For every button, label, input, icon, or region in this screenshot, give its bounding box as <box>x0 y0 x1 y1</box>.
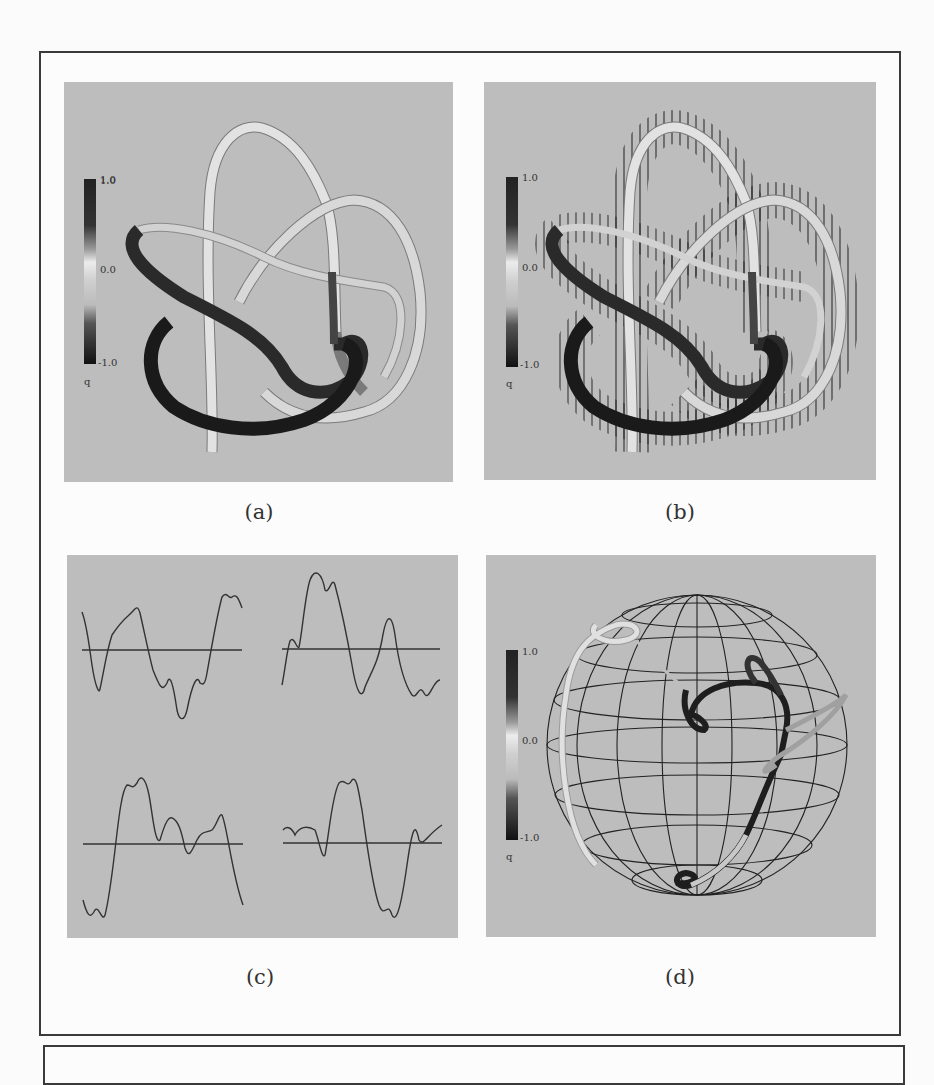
colorbar-max-label: 1.0 <box>522 646 538 657</box>
colorbar-min-label: -1.0 <box>98 357 117 368</box>
profile-curves-plot <box>67 555 458 938</box>
colorbar-mid-label: 0.0 <box>522 735 538 746</box>
panel-c <box>67 555 458 938</box>
panel-b: 1.0 0.0 -1.0 q <box>484 82 876 480</box>
colorbar <box>84 179 96 364</box>
caption-c: (c) <box>230 965 290 989</box>
colorbar-mid-label: 0.0 <box>100 264 116 275</box>
colorbar-variable-label: q <box>506 851 512 862</box>
caption-a: (a) <box>229 500 289 524</box>
sphere-curve-plot <box>486 555 876 937</box>
colorbar <box>506 177 518 367</box>
colorbar-min-label: -1.0 <box>520 359 539 370</box>
colorbar-max-label: 1.0 <box>100 174 116 185</box>
caption-b: (b) <box>650 500 710 524</box>
colorbar <box>506 650 518 840</box>
colorbar-variable-label: q <box>506 378 512 389</box>
knot-tube-plot: 1.0 <box>64 82 453 482</box>
knot-tube-normals-plot <box>484 82 876 480</box>
colorbar-variable-label: q <box>84 376 90 387</box>
colorbar-min-label: -1.0 <box>520 832 539 843</box>
next-figure-frame <box>43 1045 905 1085</box>
panel-a: 1.0 1.0 0.0 -1.0 q <box>64 82 453 482</box>
panel-d: 1.0 0.0 -1.0 q <box>486 555 876 937</box>
colorbar-mid-label: 0.0 <box>522 262 538 273</box>
colorbar-max-label: 1.0 <box>522 172 538 183</box>
caption-d: (d) <box>650 965 710 989</box>
